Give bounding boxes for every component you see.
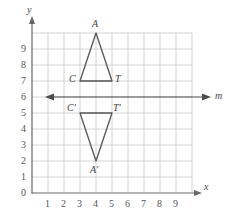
vertex-label-a: A <box>92 19 98 29</box>
y-tick-9: 9 <box>21 44 26 54</box>
x-tick-5: 5 <box>109 199 114 209</box>
vertex-label-a-prime: A' <box>90 165 98 175</box>
x-tick-6: 6 <box>125 199 130 209</box>
x-tick-3: 3 <box>77 199 82 209</box>
y-tick-1: 1 <box>21 172 26 182</box>
vertex-label-c: C <box>69 74 76 84</box>
x-tick-2: 2 <box>61 199 66 209</box>
y-axis-arrowhead <box>29 16 35 24</box>
y-tick-8: 8 <box>21 60 26 70</box>
x-axis-arrowhead <box>194 190 202 196</box>
x-tick-7: 7 <box>141 199 146 209</box>
y-tick-6: 6 <box>21 92 26 102</box>
vertex-label-t: T <box>115 74 121 84</box>
vertex-label-t-prime: T' <box>113 103 121 113</box>
x-axis-label: x <box>204 182 208 192</box>
line-m-left-arrowhead <box>45 94 54 101</box>
x-tick-1: 1 <box>45 199 50 209</box>
line-m-right-arrowhead <box>202 94 211 101</box>
y-tick-0: 0 <box>21 188 26 198</box>
y-tick-2: 2 <box>21 156 26 166</box>
x-tick-9: 9 <box>173 199 178 209</box>
y-tick-5: 5 <box>21 108 26 118</box>
vertex-label-c-prime: C' <box>67 103 76 113</box>
y-tick-7: 7 <box>21 76 26 86</box>
x-tick-8: 8 <box>157 199 162 209</box>
line-m-label: m <box>215 91 222 101</box>
x-tick-4: 4 <box>93 199 98 209</box>
y-axis-label: y <box>27 5 31 15</box>
y-tick-4: 4 <box>21 124 26 134</box>
coordinate-plane-figure: y x m 1 2 3 4 5 6 7 8 9 0 1 2 3 4 5 6 7 … <box>0 0 238 217</box>
y-tick-3: 3 <box>21 140 26 150</box>
